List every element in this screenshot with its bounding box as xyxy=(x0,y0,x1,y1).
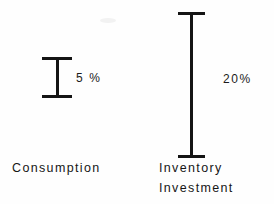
consumption-marker-stem xyxy=(56,60,59,95)
paper-smudge-artifact xyxy=(100,18,116,23)
consumption-marker-bottom-cap xyxy=(42,95,72,98)
consumption-range-marker xyxy=(42,57,72,98)
inventory-investment-category-label: Inventory Investment xyxy=(159,158,234,198)
consumption-value-label: 5 % xyxy=(76,71,101,85)
consumption-category-label: Consumption xyxy=(12,158,101,178)
inventory-marker-stem xyxy=(190,15,193,155)
inventory-label-line-1: Inventory xyxy=(159,161,223,175)
chart-figure: 5 % 20% Consumption Inventory Investment xyxy=(0,0,274,204)
inventory-label-line-2: Investment xyxy=(159,178,234,198)
inventory-investment-range-marker xyxy=(178,12,205,158)
inventory-investment-value-label: 20% xyxy=(223,72,252,86)
